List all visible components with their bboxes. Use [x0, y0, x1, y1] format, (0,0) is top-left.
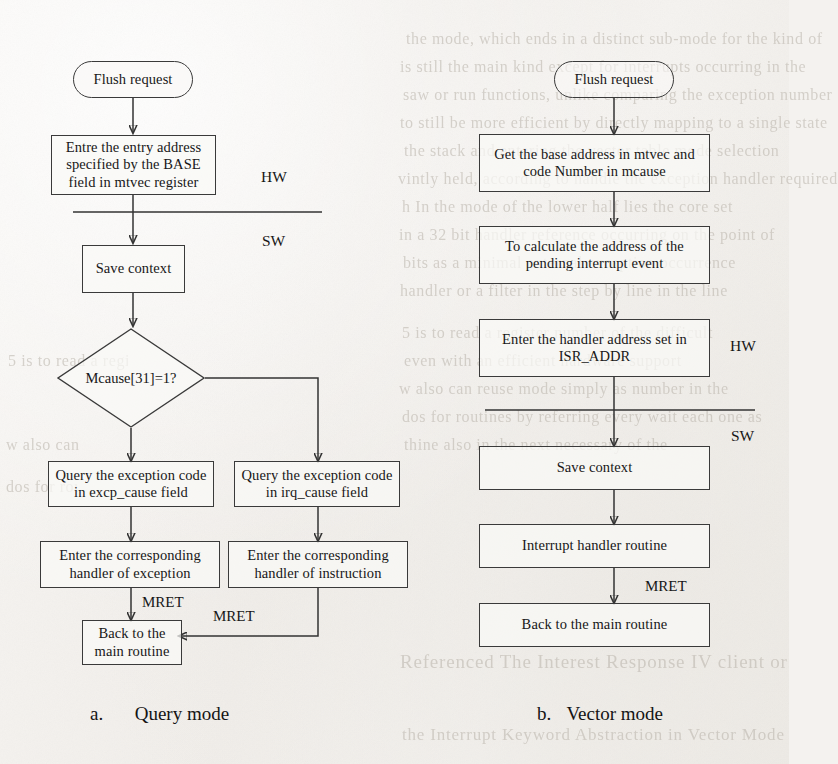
node-label: Query the exception code in excp_cause f… — [53, 467, 209, 501]
layer-label-sw-query: SW — [262, 232, 285, 250]
edge-label-mret-vector: MRET — [645, 578, 687, 595]
node-label: Back to the main routine — [87, 625, 177, 659]
node-back-to-main-vector: Back to the main routine — [479, 603, 710, 647]
node-back-to-main-query: Back to the main routine — [82, 620, 182, 665]
node-flush-request-vector: Flush request — [554, 61, 674, 98]
node-mcause-decision: Mcause[31]=1? — [57, 328, 205, 428]
node-label: Enter the handler address set in ISR_ADD… — [484, 331, 705, 365]
edge-label-text: MRET — [142, 594, 184, 610]
node-handler-of-exception: Enter the corresponding handler of excep… — [40, 541, 220, 588]
layer-label-text: HW — [261, 168, 287, 185]
node-label: Back to the main routine — [522, 616, 668, 633]
node-get-base-address: Get the base address in mtvec and code N… — [479, 134, 710, 192]
node-label: To calculate the address of the pending … — [484, 238, 705, 272]
node-label: Interrupt handler routine — [522, 537, 667, 554]
edge-label-mret-right: MRET — [213, 608, 255, 625]
caption-text: Vector mode — [566, 703, 663, 724]
node-interrupt-handler-routine: Interrupt handler routine — [479, 524, 710, 568]
layer-label-sw-vector: SW — [731, 427, 754, 445]
node-entry-address: Entre the entry address specified by the… — [51, 135, 216, 195]
node-query-irq-cause: Query the exception code in irq_cause fi… — [234, 461, 400, 507]
node-label: Flush request — [574, 71, 653, 88]
layer-label-text: SW — [731, 427, 754, 444]
caption-text: Query mode — [135, 703, 229, 724]
caption-prefix: b. — [537, 703, 551, 724]
caption-prefix: a. — [90, 703, 103, 724]
node-label: Flush request — [93, 71, 172, 88]
node-calculate-pending-address: To calculate the address of the pending … — [479, 226, 710, 284]
node-save-context-vector: Save context — [479, 446, 710, 490]
node-label: Mcause[31]=1? — [57, 328, 205, 428]
caption-vector-mode: b. Vector mode — [537, 703, 663, 725]
node-label: Enter the corresponding handler of instr… — [233, 547, 403, 581]
edge-label-text: MRET — [645, 578, 687, 594]
node-label: Query the exception code in irq_cause fi… — [239, 467, 395, 501]
node-save-context-query: Save context — [82, 245, 185, 293]
node-handler-of-instruction: Enter the corresponding handler of instr… — [228, 541, 408, 588]
node-label: Get the base address in mtvec and code N… — [484, 146, 705, 180]
node-query-excp-cause: Query the exception code in excp_cause f… — [48, 461, 214, 507]
node-label: Entre the entry address specified by the… — [56, 139, 211, 190]
node-label: Enter the corresponding handler of excep… — [45, 547, 215, 581]
layer-label-hw-query: HW — [261, 168, 287, 186]
node-label: Save context — [96, 260, 172, 277]
edge-label-text: MRET — [213, 608, 255, 624]
node-flush-request-query: Flush request — [73, 61, 193, 98]
layer-label-text: HW — [730, 337, 756, 354]
node-enter-isr-addr: Enter the handler address set in ISR_ADD… — [479, 319, 710, 377]
node-label: Save context — [557, 459, 633, 476]
layer-label-text: SW — [262, 232, 285, 249]
edge-label-mret-left: MRET — [142, 594, 184, 611]
caption-query-mode: a. Query mode — [90, 703, 229, 725]
layer-label-hw-vector: HW — [730, 337, 756, 355]
